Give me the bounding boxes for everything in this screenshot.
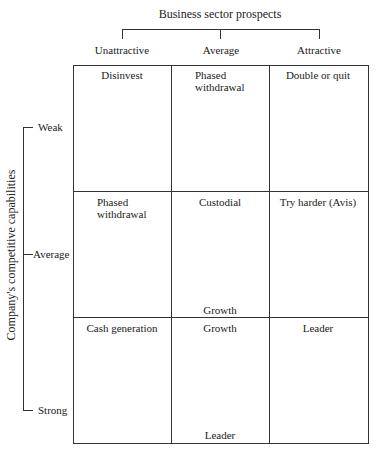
top-bracket-tick-center (220, 29, 221, 39)
row-label-strong: Strong (38, 404, 67, 416)
cell-strong-average-bottom: Leader (171, 429, 269, 441)
cell-average-average-bottom: Growth (171, 304, 269, 316)
top-bracket-tick-left (122, 29, 123, 39)
grid-vline-1 (171, 65, 172, 443)
y-axis-title: Company's competitive capabilities (3, 120, 19, 390)
cell-weak-unattractive: Disinvest (73, 69, 171, 81)
left-bracket-tick-average (23, 254, 33, 255)
left-bracket-tick-weak (23, 127, 33, 128)
cell-strong-attractive: Leader (269, 322, 367, 334)
chart-title: Business sector prospects (120, 8, 320, 20)
cell-strong-unattractive: Cash generation (73, 322, 171, 334)
cell-average-unattractive: Phased withdrawal (97, 196, 146, 220)
row-label-weak: Weak (38, 121, 63, 133)
cell-weak-average: Phased withdrawal (195, 69, 244, 93)
cell-strong-average: Growth (171, 322, 269, 334)
left-bracket-tick-strong (23, 410, 33, 411)
grid-hline-1 (73, 191, 368, 192)
left-bracket-vertical (23, 127, 24, 411)
grid-vline-2 (269, 65, 270, 443)
matrix-grid (73, 65, 369, 444)
cell-average-average: Custodial (171, 196, 269, 208)
top-bracket-tick-right (319, 29, 320, 39)
cell-average-attractive: Try harder (Avis) (269, 196, 367, 208)
column-header-average: Average (171, 44, 271, 56)
grid-hline-2 (73, 317, 368, 318)
top-bracket-horizontal (122, 29, 320, 30)
cell-weak-attractive: Double or quit (269, 69, 367, 81)
column-header-unattractive: Unattractive (72, 44, 172, 56)
row-label-average: Average (33, 248, 69, 260)
column-header-attractive: Attractive (269, 44, 369, 56)
